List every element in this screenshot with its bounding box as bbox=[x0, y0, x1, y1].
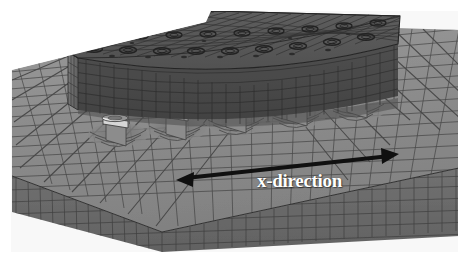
fea-mesh-figure: x-direction bbox=[0, 0, 469, 265]
fea-mesh-scene bbox=[0, 0, 469, 265]
